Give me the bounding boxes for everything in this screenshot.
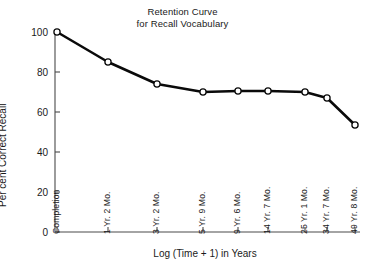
x-tick-label: 9 Yr. 6 Mo. <box>232 192 242 235</box>
y-axis-title: Per cent Correct Recall <box>0 104 8 207</box>
x-tick-label: 3 Yr. 2 Mo. <box>151 192 161 235</box>
data-point-markers <box>54 29 358 128</box>
data-point-marker <box>154 81 160 87</box>
data-point-marker <box>235 88 241 94</box>
data-point-marker <box>324 95 330 101</box>
data-point-marker <box>200 89 206 95</box>
x-axis-title: Log (Time + 1) in Years <box>55 248 355 259</box>
axes <box>55 32 360 232</box>
x-tick-label: 1 Yr. 2 Mo. <box>102 192 112 235</box>
data-point-marker <box>352 122 358 128</box>
x-tick-label: 34 Yr. 7 Mo. <box>321 187 331 234</box>
retention-curve-figure: Retention Curve for Recall Vocabulary 02… <box>0 0 365 270</box>
x-tick-label: Completion <box>51 190 61 234</box>
y-tick-label: 80 <box>14 67 48 78</box>
y-tick-label: 20 <box>14 187 48 198</box>
x-tick-label: 5 Yr. 9 Mo. <box>197 192 207 235</box>
x-tick-label: 49 Yr. 8 Mo. <box>349 187 359 234</box>
x-tick-label: 25 Yr. 1 Mo. <box>299 187 309 234</box>
y-tick-label: 0 <box>14 227 48 238</box>
x-tick-label: 14 Yr. 7 Mo. <box>262 187 272 234</box>
y-tick-label: 100 <box>14 27 48 38</box>
data-point-marker <box>265 88 271 94</box>
data-point-marker <box>302 89 308 95</box>
y-tick-label: 60 <box>14 107 48 118</box>
retention-series-line <box>57 32 355 125</box>
y-tick-label: 40 <box>14 147 48 158</box>
data-point-marker <box>105 59 111 65</box>
data-point-marker <box>54 29 60 35</box>
